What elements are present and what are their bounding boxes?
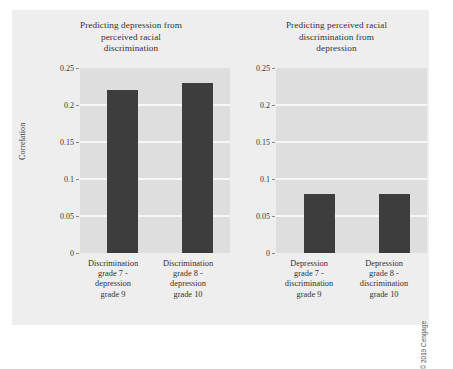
gridline: [276, 178, 427, 180]
y-tick-mark: [76, 179, 79, 180]
y-tick-label: 0.2: [218, 101, 270, 110]
y-tick-label: 0.2: [22, 101, 74, 110]
figure-panel: Predicting depression from perceived rac…: [12, 10, 429, 325]
y-tick-mark: [76, 68, 79, 69]
y-tick-mark: [76, 216, 79, 217]
bar: [107, 90, 138, 253]
chart-right-plot-wrap: 0.25 0.2 0.15 0.1 0.05 0: [244, 10, 429, 325]
y-tick-label: 0.25: [218, 64, 270, 73]
y-tick-mark: [272, 216, 275, 217]
y-tick-mark: [272, 142, 275, 143]
y-tick-label: 0: [218, 249, 270, 258]
chart-right: Predicting perceived racial discriminati…: [244, 10, 429, 325]
y-tick-mark: [76, 253, 79, 254]
y-tick-label: 0.1: [218, 175, 270, 184]
y-tick-label: 0.1: [22, 175, 74, 184]
y-tick-label: 0.25: [22, 64, 74, 73]
x-category-label: Discrimination grade 7 - depression grad…: [75, 259, 151, 300]
chart-left-plot-area: [80, 68, 230, 253]
gridline: [276, 141, 427, 143]
y-tick-label: 0.05: [22, 212, 74, 221]
gridline: [276, 104, 427, 106]
copyright-notice: © 2019 Cengage: [420, 321, 427, 369]
chart-right-plot-area: [276, 68, 427, 253]
x-category-label: Discrimination grade 8 - depression grad…: [150, 259, 226, 300]
y-tick-label: 0.15: [218, 138, 270, 147]
y-tick-mark: [272, 105, 275, 106]
y-tick-label: 0.15: [22, 138, 74, 147]
chart-left: Predicting depression from perceived rac…: [20, 10, 242, 325]
x-category-label: Depression grade 7 - discrimination grad…: [271, 259, 347, 300]
bar: [379, 194, 410, 253]
bar: [182, 83, 213, 253]
y-tick-label: 0: [22, 249, 74, 258]
bar: [304, 194, 335, 253]
y-tick-mark: [76, 105, 79, 106]
y-tick-mark: [272, 68, 275, 69]
y-tick-mark: [76, 142, 79, 143]
y-tick-mark: [272, 253, 275, 254]
x-category-label: Depression grade 8 - discrimination grad…: [346, 259, 422, 300]
y-tick-label: 0.05: [218, 212, 270, 221]
y-tick-mark: [272, 179, 275, 180]
chart-left-plot-wrap: Correlation 0.25 0.2 0.15 0.1 0.05 0: [20, 10, 242, 325]
